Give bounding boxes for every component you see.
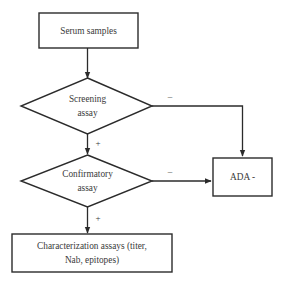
arrow-screening-negative (152, 106, 243, 156)
confirmatory-assay-label-line1: Confirmatory (62, 169, 113, 179)
ada-negative-label: ADA - (230, 172, 255, 182)
node-confirmatory-assay: Confirmatory assay (21, 155, 152, 207)
screening-assay-label-line1: Screening (69, 94, 107, 104)
characterization-assays-label-line2: Nab, epitopes) (65, 255, 119, 266)
serum-samples-label: Serum samples (60, 26, 117, 36)
node-screening-assay: Screening assay (21, 78, 152, 134)
edge-label-screening-positive: + (95, 138, 100, 148)
node-ada-negative: ADA - (213, 158, 272, 196)
flowchart-figure: Serum samples Screening assay Confirmato… (0, 0, 291, 282)
screening-assay-label-line2: assay (77, 108, 97, 118)
edge-label-confirmatory-negative: – (167, 166, 173, 176)
edge-label-confirmatory-positive: + (95, 213, 100, 223)
characterization-assays-box (12, 234, 172, 272)
screening-assay-diamond (21, 78, 152, 134)
node-serum-samples: Serum samples (39, 13, 138, 48)
node-characterization-assays: Characterization assays (titer, Nab, epi… (12, 234, 172, 272)
confirmatory-assay-diamond (21, 155, 152, 207)
flowchart-canvas: Serum samples Screening assay Confirmato… (0, 0, 291, 282)
edge-label-screening-negative: – (167, 91, 173, 101)
characterization-assays-label-line1: Characterization assays (titer, (37, 241, 147, 252)
connector-screening-negative-to-ada (152, 106, 243, 156)
confirmatory-assay-label-line2: assay (77, 183, 97, 193)
